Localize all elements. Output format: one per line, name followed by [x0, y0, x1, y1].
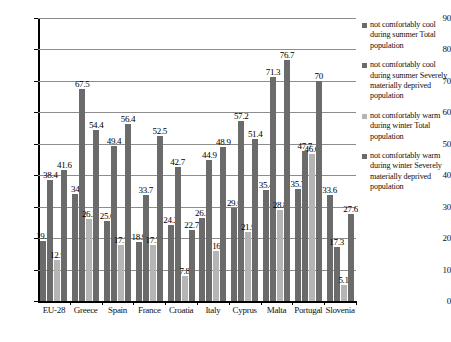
bar-fill — [302, 151, 308, 301]
bar-value-label: 33.6 — [322, 185, 337, 195]
bar: 5.1 — [341, 285, 347, 301]
bar-group: 3467.526.254.4 — [70, 18, 102, 301]
legend-swatch-icon — [362, 63, 367, 68]
x-tick-label: Cyprus — [229, 305, 261, 316]
bar: 16 — [213, 251, 219, 301]
legend-item[interactable]: not comfortably cool during summer Total… — [362, 20, 450, 51]
bar-fill — [125, 124, 131, 301]
bar: 42.7 — [175, 167, 181, 301]
bar-fill — [263, 190, 269, 301]
bar-value-label: 27.6 — [343, 204, 358, 214]
bar: 27.6 — [348, 214, 354, 301]
bar-fill — [79, 89, 85, 301]
bar-fill — [277, 210, 283, 301]
bar-group: 18.933.717.752.5 — [133, 18, 165, 301]
bar-fill — [118, 245, 124, 301]
bar-fill — [341, 285, 347, 301]
bar: 70 — [316, 81, 322, 301]
bar-group: 35.471.328.876.7 — [261, 18, 293, 301]
bar-fill — [348, 214, 354, 301]
bar-fill — [231, 208, 237, 301]
legend-item[interactable]: not comfortably cool during summer Sever… — [362, 60, 450, 102]
bar-value-label: 67.5 — [75, 79, 90, 89]
y-tick-label: 0 — [425, 297, 451, 306]
bar: 67.5 — [79, 89, 85, 301]
bar: 52.5 — [157, 136, 163, 301]
bar-fill — [72, 194, 78, 301]
legend-label: not comfortably cool during summer Total… — [370, 20, 450, 51]
x-tick-label: France — [133, 305, 165, 316]
bar-group: 19.238.412.941.6 — [38, 18, 70, 301]
bar-fill — [252, 139, 258, 301]
bar-fill — [182, 276, 188, 301]
bar-fill — [316, 81, 322, 301]
bar-group: 25.649.417.756.4 — [102, 18, 134, 301]
bar-fill — [40, 241, 46, 301]
bar: 54.4 — [93, 130, 99, 301]
x-tick-label: Malta — [261, 305, 293, 316]
bar: 12.9 — [54, 260, 60, 301]
bar-fill — [157, 136, 163, 301]
bar-fill — [54, 260, 60, 301]
bar: 46.6 — [309, 154, 315, 301]
bar: 33.6 — [327, 195, 333, 301]
bar: 41.6 — [61, 170, 67, 301]
bar: 18.9 — [136, 242, 142, 301]
bar-fill — [86, 219, 92, 301]
legend-item[interactable]: not comfortably warm during winter Total… — [362, 111, 450, 142]
bar: 38.4 — [47, 180, 53, 301]
bar-groups: 19.238.412.941.63467.526.254.425.649.417… — [38, 18, 356, 301]
bar-fill — [150, 245, 156, 301]
bar: 34 — [72, 194, 78, 301]
bar: 35.4 — [263, 190, 269, 301]
legend-label: not comfortably cool during summer Sever… — [370, 60, 450, 102]
bar: 17.7 — [118, 245, 124, 301]
bar-fill — [143, 195, 149, 301]
bar-fill — [220, 147, 226, 301]
bar-fill — [213, 251, 219, 301]
bar-fill — [93, 130, 99, 301]
x-tick-label: Italy — [197, 305, 229, 316]
bar-group: 24.242.77.822.7 — [165, 18, 197, 301]
bar: 7.8 — [182, 276, 188, 301]
bar: 49.4 — [111, 146, 117, 301]
bar: 48.9 — [220, 147, 226, 301]
y-tick-label: 10 — [425, 265, 451, 274]
bar-fill — [111, 146, 117, 301]
x-axis-labels: EU-28GreeceSpainFranceCroatiaItalyCyprus… — [38, 305, 356, 316]
chart-legend: not comfortably cool during summer Total… — [362, 20, 450, 202]
bar: 17.7 — [150, 245, 156, 301]
bar: 51.4 — [252, 139, 258, 301]
legend-label: not comfortably warm during winter Total… — [370, 111, 450, 142]
bar-fill — [327, 195, 333, 301]
bar-group: 35.747.746.670 — [292, 18, 324, 301]
bar: 56.4 — [125, 124, 131, 301]
legend-item[interactable]: not comfortably warm during winter Sever… — [362, 151, 450, 193]
bar-fill — [206, 160, 212, 301]
bar-value-label: 49.4 — [107, 136, 122, 146]
bar-value-label: 16 — [212, 241, 220, 251]
bar: 33.7 — [143, 195, 149, 301]
legend-swatch-icon — [362, 154, 367, 159]
bar-fill — [245, 232, 251, 301]
bar-value-label: 38.4 — [43, 170, 58, 180]
bar-fill — [284, 60, 290, 301]
bar: 57.2 — [238, 121, 244, 301]
bar-fill — [47, 180, 53, 301]
bar: 17.3 — [334, 247, 340, 301]
bar: 21.9 — [245, 232, 251, 301]
bar-value-label: 44.9 — [202, 150, 217, 160]
bar-fill — [270, 77, 276, 301]
bar-value-label: 17.3 — [329, 237, 344, 247]
bar: 29.6 — [231, 208, 237, 301]
bar: 19.2 — [40, 241, 46, 301]
bar-value-label: 57.2 — [234, 111, 249, 121]
bar-fill — [61, 170, 67, 301]
bar-fill — [168, 225, 174, 301]
x-tick-label: Portugal — [292, 305, 324, 316]
bar-fill — [295, 189, 301, 301]
plot-area: 19.238.412.941.63467.526.254.425.649.417… — [38, 18, 356, 301]
bar: 44.9 — [206, 160, 212, 301]
x-tick-label: EU-28 — [38, 305, 70, 316]
bar: 26.3 — [199, 218, 205, 301]
